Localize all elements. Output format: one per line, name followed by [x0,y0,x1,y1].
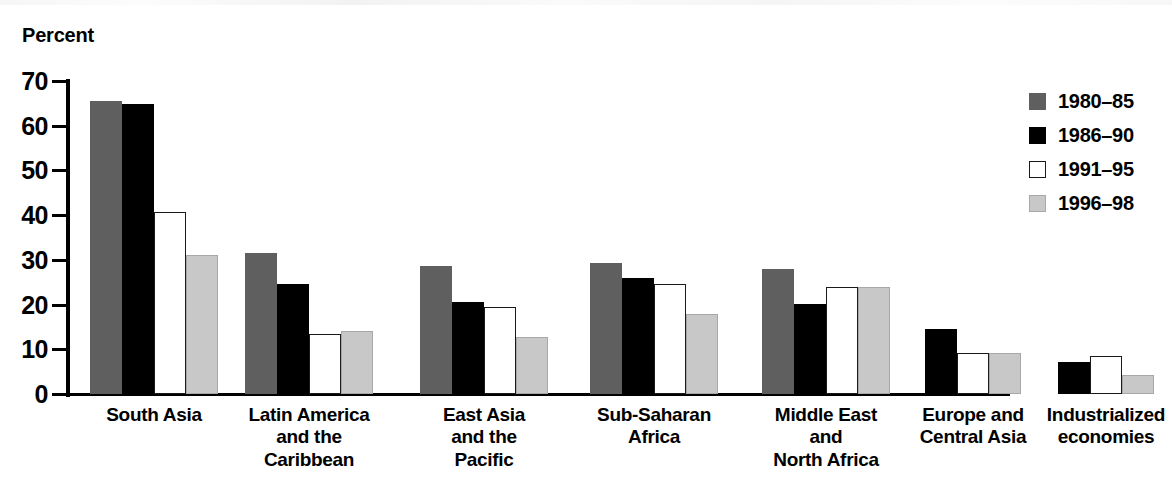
bar [452,302,484,394]
bar [762,269,794,394]
x-axis-category-label-line: Pacific [389,449,579,471]
bar [590,263,622,394]
bar [245,253,277,394]
x-axis-category-label-line: economies [1011,426,1172,448]
bar-group [420,81,548,394]
bar [1058,362,1090,394]
y-axis-tick [52,169,68,172]
y-axis-tick [52,348,68,351]
legend-label: 1980–85 [1058,90,1134,113]
legend-item: 1991–95 [1029,154,1134,184]
legend-swatch-icon [1029,195,1046,212]
bar [858,287,890,394]
y-axis-tick-label: 70 [2,69,48,94]
y-axis-tick-label: 30 [2,247,48,272]
legend-label: 1996–98 [1058,192,1134,215]
legend-label: 1986–90 [1058,124,1134,147]
bar [989,353,1021,394]
y-axis-title: Percent [22,24,94,47]
bar [186,255,218,395]
x-axis-category-label-line: North Africa [731,449,921,471]
bar [794,304,826,394]
bar [154,212,186,394]
bar [484,307,516,394]
x-axis-category-label: Latin Americaand theCaribbean [214,404,404,471]
x-axis-category-label-line: Africa [559,426,749,448]
bar [1090,356,1122,394]
x-axis-category-label-line: Caribbean [214,449,404,471]
bar [826,287,858,394]
y-axis-tick-label: 10 [2,337,48,362]
bar [925,329,957,394]
bar [309,334,341,394]
bar [90,101,122,394]
plot-area [68,81,1008,394]
y-axis-tick [52,259,68,262]
legend-item: 1986–90 [1029,120,1134,150]
x-axis-category-label: Industrializedeconomies [1011,404,1172,449]
x-axis-category-label-line: and the [214,426,404,448]
x-axis-category-label-line: and the [389,426,579,448]
y-axis-tick [52,80,68,83]
legend-item: 1996–98 [1029,188,1134,218]
bar [420,266,452,394]
y-axis-tick-label: 40 [2,203,48,228]
y-axis-tick [52,393,68,396]
legend-item: 1980–85 [1029,86,1134,116]
scan-artifact [0,0,1172,5]
legend-label: 1991–95 [1058,158,1134,181]
y-axis-tick [52,304,68,307]
y-axis-tick-label: 60 [2,113,48,138]
x-axis-category-label-line: Industrialized [1011,404,1172,426]
bar-chart: Percent 010203040506070 South AsiaLatin … [0,0,1172,499]
y-axis-tick-label: 50 [2,158,48,183]
legend-swatch-icon [1029,93,1046,110]
y-axis-tick [52,214,68,217]
bar-group [245,81,373,394]
y-axis-tick-label: 20 [2,292,48,317]
bar [654,284,686,394]
bar-group [762,81,890,394]
bar [516,337,548,394]
bar-group [590,81,718,394]
x-axis-category-label-line: Latin America [214,404,404,426]
x-axis-category-label: East Asiaand thePacific [389,404,579,471]
x-axis-category-label-line: East Asia [389,404,579,426]
bar [277,284,309,394]
bar [957,353,989,394]
bar-group [90,81,218,394]
bar-group [925,81,1021,394]
bar [1122,375,1154,394]
legend-swatch-icon [1029,161,1046,178]
bar [341,331,373,394]
legend-swatch-icon [1029,127,1046,144]
bar [686,314,718,394]
chart-legend: 1980–851986–901991–951996–98 [1029,86,1134,222]
x-axis-category-label-line: Sub-Saharan [559,404,749,426]
y-axis-tick [52,125,68,128]
bar [622,278,654,394]
y-axis-tick-label: 0 [2,382,48,407]
x-axis-category-label: Sub-SaharanAfrica [559,404,749,449]
bar [122,104,154,394]
